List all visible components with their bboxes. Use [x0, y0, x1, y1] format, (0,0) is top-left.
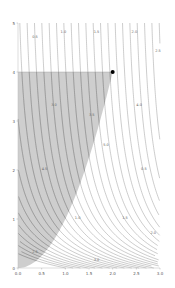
contour-label: 3.5 — [89, 113, 95, 117]
contour-line — [123, 23, 160, 227]
shaded-feasible-region — [18, 72, 113, 268]
y-tick-label: 3 — [12, 119, 15, 124]
contour-label: 0.5 — [32, 35, 38, 39]
contour-label: 2.5 — [155, 49, 161, 53]
x-tick-label: 3.0 — [157, 271, 164, 276]
x-tick-label: 2.5 — [133, 271, 140, 276]
contour-label: 1.0 — [75, 216, 81, 220]
contour-label: 1.5 — [94, 30, 100, 34]
contour-line — [152, 23, 160, 139]
y-tick-label: 2 — [12, 168, 15, 173]
contour-label: 1.0 — [61, 30, 67, 34]
contour-label: 4.5 — [42, 167, 48, 171]
contour-label: 4.0 — [136, 103, 142, 107]
x-tick-label: 1.0 — [62, 271, 69, 276]
y-tick-label: 1 — [12, 217, 15, 222]
highlight-point — [111, 70, 115, 74]
y-tick-labels: 012345 — [12, 21, 18, 271]
contour-label: 3.0 — [94, 258, 100, 262]
contour-chart: 0.51.01.52.02.53.03.54.04.55.00.51.01.52… — [0, 0, 175, 288]
x-tick-label: 1.5 — [86, 271, 93, 276]
contour-line-in-region — [145, 23, 160, 178]
contour-label: 2.0 — [132, 30, 138, 34]
x-tick-label: 0.5 — [38, 271, 45, 276]
y-tick-label: 5 — [12, 21, 15, 26]
contour-line-in-region — [123, 23, 160, 227]
y-tick-label: 0 — [12, 266, 15, 271]
x-tick-labels: 0.00.51.01.52.02.53.0 — [15, 268, 164, 276]
contour-label: 5.0 — [103, 143, 109, 147]
y-tick-label: 4 — [12, 70, 15, 75]
contour-label: 2.5 — [32, 250, 38, 254]
x-tick-label: 0.0 — [15, 271, 22, 276]
contour-line — [159, 23, 160, 43]
contour-label: 0.5 — [141, 167, 147, 171]
contour-label: 1.5 — [122, 216, 128, 220]
x-tick-label: 2.0 — [109, 271, 116, 276]
contour-line-in-region — [152, 23, 160, 139]
contour-line — [145, 23, 160, 178]
contour-label: 3.0 — [51, 103, 57, 107]
contour-label: 2.0 — [151, 231, 157, 235]
